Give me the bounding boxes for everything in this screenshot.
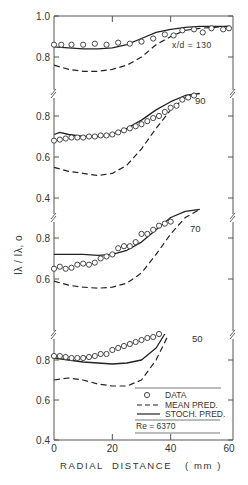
data-point xyxy=(81,42,86,47)
legend-re-label: Re = 6370 xyxy=(136,421,176,431)
data-point xyxy=(116,246,121,251)
data-point xyxy=(151,227,156,232)
panel-label-130: x/d = 130 xyxy=(172,40,212,50)
data-point xyxy=(110,132,115,137)
x-tick-label: 60 xyxy=(223,443,235,454)
data-point xyxy=(75,135,80,140)
data-point xyxy=(86,134,91,139)
data-point xyxy=(186,95,191,100)
y-tick-label: 0.6 xyxy=(36,274,50,285)
x-tick-label: 0 xyxy=(51,443,57,454)
panel-p70 xyxy=(51,209,199,288)
data-point xyxy=(209,26,214,31)
data-point xyxy=(151,36,156,41)
legend-data-marker xyxy=(144,392,149,397)
legend-data-label: DATA xyxy=(165,390,187,400)
series-layer xyxy=(51,26,231,386)
data-point xyxy=(121,244,126,249)
data-point xyxy=(92,260,97,265)
data-point xyxy=(92,353,97,358)
axes-frame xyxy=(54,16,233,440)
data-point xyxy=(104,254,109,259)
data-point xyxy=(145,231,150,236)
data-point xyxy=(200,30,205,35)
y-axis-label: Iλ / Iλ, o xyxy=(13,235,24,275)
data-point xyxy=(57,264,62,269)
data-point xyxy=(139,231,144,236)
radial-intensity-chart: 02040601.00.80.80.60.40.80.60.80.60.4 x/… xyxy=(0,0,248,485)
data-point xyxy=(59,42,64,47)
data-point xyxy=(127,41,132,46)
legend-stoch-label: STOCH. PRED. xyxy=(165,409,225,419)
data-point xyxy=(104,351,109,356)
stoch-pred-line xyxy=(54,209,200,255)
panel-p50 xyxy=(51,331,167,386)
data-point xyxy=(127,341,132,346)
data-point xyxy=(92,134,97,139)
data-point xyxy=(133,339,138,344)
data-point xyxy=(104,42,109,47)
data-point xyxy=(57,353,62,358)
data-point xyxy=(139,122,144,127)
data-point xyxy=(116,40,121,45)
data-point xyxy=(86,354,91,359)
panel-label-50: 50 xyxy=(192,333,203,344)
data-point xyxy=(226,26,231,31)
y-tick-label: 1.0 xyxy=(36,11,50,22)
data-point xyxy=(180,28,185,33)
data-point xyxy=(151,115,156,120)
mean-pred-line xyxy=(54,209,200,288)
data-point xyxy=(63,136,68,141)
y-tick-label: 0.4 xyxy=(36,193,50,204)
x-axis-label: RADIAL DISTANCE ( mm ) xyxy=(60,460,222,471)
data-point xyxy=(110,347,115,352)
data-point xyxy=(168,219,173,224)
data-point xyxy=(116,130,121,135)
data-point xyxy=(81,135,86,140)
data-point xyxy=(81,261,86,266)
data-point xyxy=(116,345,121,350)
data-point xyxy=(69,135,74,140)
data-point xyxy=(180,97,185,102)
axis-ticks xyxy=(54,16,233,440)
data-point xyxy=(162,109,167,114)
data-point xyxy=(104,133,109,138)
y-tick-label: 0.6 xyxy=(36,152,50,163)
data-point xyxy=(191,27,196,32)
panel-label-70: 70 xyxy=(190,223,201,234)
data-point xyxy=(156,223,161,228)
x-tick-label: 40 xyxy=(165,443,177,454)
data-point xyxy=(63,354,68,359)
data-point xyxy=(221,27,226,32)
data-point xyxy=(51,138,56,143)
data-point xyxy=(57,137,62,142)
legend: DATA MEAN PRED. STOCH. PRED. Re = 6370 xyxy=(135,388,225,433)
panel-p90 xyxy=(51,93,199,176)
data-point xyxy=(162,32,167,37)
data-point xyxy=(110,252,115,257)
data-point xyxy=(86,262,91,267)
x-tick-label: 20 xyxy=(107,443,119,454)
panel-label-90: 90 xyxy=(195,95,206,106)
data-point xyxy=(51,42,56,47)
tick-labels: 02040601.00.80.80.60.40.80.60.80.60.4 xyxy=(36,11,235,455)
y-tick-label: 0.4 xyxy=(36,435,50,446)
y-tick-label: 0.8 xyxy=(36,111,50,122)
data-point xyxy=(156,113,161,118)
data-point xyxy=(98,351,103,356)
data-point xyxy=(174,103,179,108)
data-point xyxy=(92,41,97,46)
data-point xyxy=(98,256,103,261)
data-point xyxy=(121,128,126,133)
data-point xyxy=(133,124,138,129)
data-point xyxy=(127,126,132,131)
data-point xyxy=(69,355,74,360)
data-point xyxy=(121,343,126,348)
data-point xyxy=(151,334,156,339)
data-point xyxy=(81,355,86,360)
data-point xyxy=(63,266,68,271)
data-point xyxy=(98,133,103,138)
data-point xyxy=(69,42,74,47)
data-point xyxy=(162,221,167,226)
data-point xyxy=(51,353,56,358)
